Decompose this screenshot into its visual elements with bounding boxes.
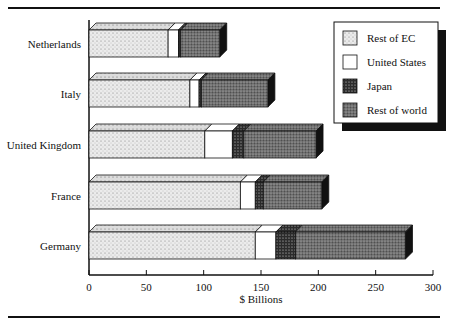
legend-label-japan: Japan <box>367 80 393 92</box>
bar-segment-rest-of-world <box>201 80 268 107</box>
category-labels: NetherlandsItalyUnited KingdomFranceGerm… <box>7 38 82 252</box>
bar-top-face <box>263 175 328 182</box>
category-label: Netherlands <box>28 38 81 50</box>
legend-swatch-rest-of-world <box>343 103 357 117</box>
bar-segment-rest-of-world <box>263 182 321 209</box>
x-tick-label: 0 <box>86 281 92 293</box>
bar-segment-japan <box>276 232 295 259</box>
bar-segment-rest-of-ec <box>89 80 190 107</box>
x-tick-label: 100 <box>195 281 212 293</box>
category-label: Italy <box>61 88 82 100</box>
bar-segment-united-states <box>168 30 178 57</box>
legend-label-rest-of-world: Rest of world <box>367 104 427 116</box>
bar-segment-united-states <box>205 131 233 158</box>
legend-label-united-states: United States <box>367 56 426 68</box>
legend-swatch-rest-of-ec <box>343 31 357 45</box>
bar-top-face <box>89 73 197 80</box>
bar-segment-rest-of-world <box>295 232 405 259</box>
bar-top-face <box>201 73 275 80</box>
bar-top-face <box>181 23 227 30</box>
bar-top-face <box>89 175 247 182</box>
bar-top-face <box>89 124 212 131</box>
bar-segment-rest-of-world <box>181 30 220 57</box>
bar-united-kingdom <box>89 124 323 158</box>
bar-top-face <box>244 124 323 131</box>
bar-germany <box>89 225 412 259</box>
bar-segment-rest-of-ec <box>89 232 255 259</box>
legend: Rest of EC United States Japan Rest of w… <box>334 22 446 131</box>
bar-segment-rest-of-ec <box>89 182 240 209</box>
x-axis-ticks: 050100150200250300 <box>86 270 442 293</box>
x-axis-title: $ Billions <box>239 293 282 305</box>
bar-segment-united-states <box>255 232 276 259</box>
bar-netherlands <box>89 23 227 57</box>
legend-swatch-japan <box>343 79 357 93</box>
bar-segment-rest-of-world <box>244 131 316 158</box>
category-label: Germany <box>40 240 81 252</box>
bar-segment-united-states <box>240 182 255 209</box>
legend-swatch-united-states <box>343 55 357 69</box>
x-tick-label: 150 <box>253 281 270 293</box>
x-tick-label: 250 <box>367 281 384 293</box>
category-label: France <box>51 190 81 202</box>
bar-segment-united-states <box>190 80 199 107</box>
bar-france <box>89 175 329 209</box>
stacked-bar-chart: 050100150200250300 NetherlandsItalyUnite… <box>0 0 452 326</box>
bar-segment-japan <box>255 182 263 209</box>
x-tick-label: 200 <box>310 281 327 293</box>
bar-top-face <box>89 23 175 30</box>
x-tick-label: 300 <box>425 281 442 293</box>
bar-top-face <box>89 225 262 232</box>
bar-italy <box>89 73 275 107</box>
bar-segment-rest-of-ec <box>89 131 205 158</box>
category-label: United Kingdom <box>7 139 82 151</box>
bar-top-face <box>295 225 412 232</box>
bar-segment-japan <box>232 131 243 158</box>
legend-label-rest-of-ec: Rest of EC <box>367 32 415 44</box>
bar-segment-rest-of-ec <box>89 30 168 57</box>
x-tick-label: 50 <box>141 281 153 293</box>
